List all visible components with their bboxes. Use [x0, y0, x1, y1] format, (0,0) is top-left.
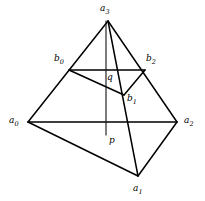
vertex-label-a0-sub: 0 [14, 120, 18, 128]
vertex-label-a1-sub: 1 [138, 188, 142, 196]
edge-a3-a0 [28, 21, 108, 122]
vertex-label-b2: b2 [146, 54, 156, 65]
vertex-label-b0-sub: 0 [60, 58, 64, 66]
point-label-q: q [107, 73, 113, 82]
vertex-label-b2-sub: 2 [152, 58, 156, 66]
diagram-canvas [0, 0, 205, 201]
vertex-label-a3-sub: 3 [105, 8, 109, 16]
edge-b0-b1 [69, 70, 124, 95]
vertex-label-b1: b1 [127, 94, 137, 105]
edge-b1-b2 [124, 70, 145, 95]
vertex-label-a0: a0 [9, 116, 19, 127]
vertex-label-a2: a2 [184, 116, 194, 127]
vertex-label-a3: a3 [100, 4, 110, 15]
point-label-p: p [109, 136, 115, 145]
vertex-label-a2-sub: 2 [189, 120, 193, 128]
edge-a1-a2 [138, 122, 177, 176]
edge-a0-a1 [28, 122, 138, 176]
geometry-diagram: a3 a0 a1 a2 b0 b1 b2 q p [0, 0, 205, 201]
vertex-label-b0: b0 [54, 54, 64, 65]
vertex-label-a1: a1 [133, 184, 143, 195]
vertex-label-b1-sub: 1 [133, 98, 137, 106]
